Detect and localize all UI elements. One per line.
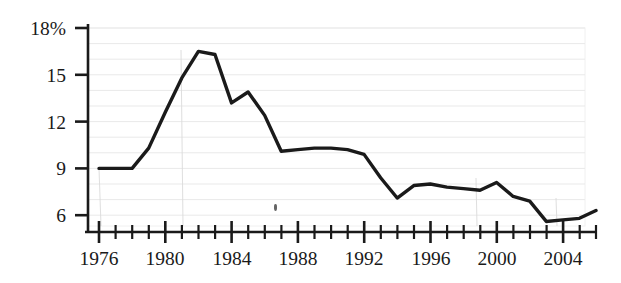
- chart-plot-area: [0, 0, 621, 283]
- ink-speck-artifact: [274, 204, 277, 211]
- x-tick-label-2004: 2004: [523, 249, 603, 269]
- y-tick-label-15: 15: [8, 66, 66, 86]
- y-axis-ticks: [75, 28, 88, 215]
- y-tick-label-9: 9: [8, 159, 66, 179]
- y-tick-label-6: 6: [8, 206, 66, 226]
- chart-container: 18% 15 12 9 6 1976 1980 1984 1988 1992 1…: [0, 0, 621, 283]
- y-tick-label-12: 12: [8, 113, 66, 133]
- y-tick-label-18: 18%: [8, 19, 66, 39]
